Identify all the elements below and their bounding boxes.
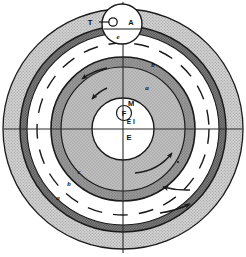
label-shell-outer-a: a <box>56 194 60 202</box>
arrow-tick-dot <box>177 161 179 163</box>
label-core-M: M <box>128 99 134 108</box>
label-inset-e: e <box>116 33 119 41</box>
label-shell-dark-band-b: b <box>67 180 71 188</box>
label-core-F: F <box>122 109 127 118</box>
concentric-shell-diagram: T A e M F E I E b a c b a <box>0 0 246 257</box>
label-shell-mid-band-b: b <box>151 61 155 69</box>
inset-marker-circle <box>109 18 117 26</box>
inset-circle <box>102 4 142 44</box>
label-core-I: I <box>133 118 135 125</box>
figure-root: T A e M F E I E b a c b a <box>0 0 246 257</box>
label-core-E-upper: E <box>127 118 132 125</box>
label-core-E-lower: E <box>126 133 131 142</box>
label-inset-A: A <box>128 18 134 27</box>
label-inset-T: T <box>88 18 93 27</box>
label-shell-white-gap-c: c <box>77 168 80 176</box>
label-shell-inner-zone-a: a <box>145 84 149 92</box>
